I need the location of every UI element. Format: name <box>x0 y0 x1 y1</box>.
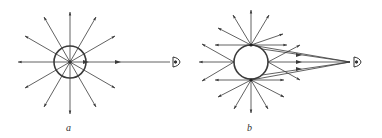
diagram-canvas <box>0 0 382 138</box>
panel-a <box>18 12 170 114</box>
eye-icon <box>354 57 361 67</box>
radial-rays <box>18 12 115 114</box>
source-sphere <box>234 45 268 79</box>
panel-b <box>199 10 350 113</box>
top-point-rays <box>215 10 287 45</box>
panel-label-a: a <box>66 122 71 133</box>
panel-label-b: b <box>247 122 252 133</box>
eye-icon <box>173 57 180 67</box>
bottom-point-rays <box>215 80 284 113</box>
